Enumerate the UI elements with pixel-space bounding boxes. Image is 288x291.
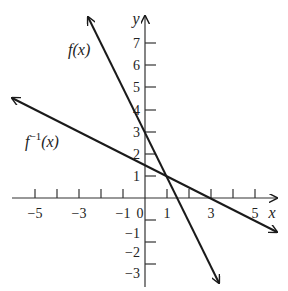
y-axis: 7 6 5 4 3 2 1 −1 −2 −3 y — [125, 10, 156, 287]
x-tick-label-p1: 1 — [164, 206, 171, 221]
y-tick-label-p6: 6 — [133, 58, 140, 73]
function-inverse-plot: −5 −3 −1 0 1 3 5 x 7 6 5 4 3 2 1 −1 −2 — [0, 0, 288, 291]
x-tick-label-m3: −3 — [72, 206, 87, 221]
x-tick-label-p3: 3 — [208, 206, 215, 221]
x-tick-label-m5: −5 — [28, 206, 43, 221]
origin-label: 0 — [137, 206, 144, 221]
y-tick-label-p5: 5 — [133, 80, 140, 95]
y-tick-label-m1: −1 — [125, 226, 140, 241]
y-tick-label-p3: 3 — [133, 125, 140, 140]
y-axis-name: y — [130, 10, 140, 28]
y-tick-label-p1: 1 — [133, 169, 140, 184]
y-tick-label-m2: −2 — [125, 245, 140, 260]
y-tick-label-m3: −3 — [125, 266, 140, 281]
f-inverse-label-sup: −1 — [29, 130, 41, 142]
f-line — [88, 17, 219, 283]
f-label: f(x) — [68, 41, 90, 59]
x-axis-name: x — [267, 204, 275, 221]
y-tick-label-p7: 7 — [133, 36, 140, 51]
f-inverse-label-tail: (x) — [41, 133, 59, 151]
x-tick-label-m1: −1 — [116, 206, 131, 221]
f-inverse-label: f−1(x) — [25, 130, 59, 151]
